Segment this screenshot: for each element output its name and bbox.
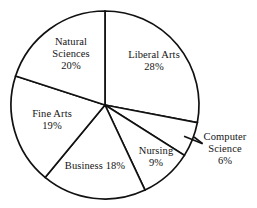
pie-chart-canvas (0, 0, 257, 208)
pie-label-value: 19% (24, 120, 80, 132)
pie-label-name: Sciences (41, 48, 101, 60)
pie-label-name: Nursing (134, 145, 178, 157)
pie-label-computer-science: ComputerScience6% (196, 131, 254, 166)
pie-label-natural-sciences: NaturalSciences20% (41, 36, 101, 71)
pie-chart: Liberal Arts28%ComputerScience6%Nursing9… (0, 0, 257, 208)
pie-label-business: Business 18% (56, 160, 134, 172)
pie-label-liberal-arts: Liberal Arts28% (117, 49, 191, 73)
pie-label-name: Liberal Arts (117, 49, 191, 61)
pie-label-name: Computer (196, 131, 254, 143)
pie-label-name: Science (196, 143, 254, 155)
pie-label-value: 20% (41, 60, 101, 72)
pie-label-value: 28% (117, 61, 191, 73)
pie-label-nursing: Nursing9% (134, 145, 178, 169)
pie-label-value: 6% (196, 155, 254, 167)
pie-label-name: Fine Arts (24, 108, 80, 120)
pie-label-value: 9% (134, 157, 178, 169)
pie-label-fine-arts: Fine Arts19% (24, 108, 80, 132)
pie-label-name: Business 18% (65, 160, 125, 171)
pie-label-name: Natural (41, 36, 101, 48)
